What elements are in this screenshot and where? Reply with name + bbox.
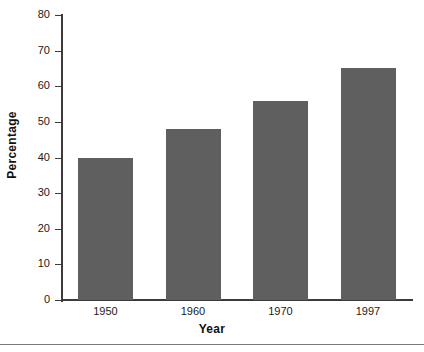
x-axis-tick-label: 1970 <box>256 306 306 317</box>
bar <box>253 101 308 301</box>
y-axis-tick-label: 60 <box>20 80 50 91</box>
plot-area <box>62 15 412 300</box>
y-axis-tick-label: 10 <box>20 258 50 269</box>
y-axis-tick <box>55 300 63 301</box>
x-axis-tick-label: 1997 <box>343 306 393 317</box>
x-axis-tick-label: 1960 <box>168 306 218 317</box>
x-axis-tick-label: 1950 <box>81 306 131 317</box>
bar <box>78 158 133 301</box>
y-axis-title: Percentage <box>5 85 19 205</box>
y-axis-tick-label: 70 <box>20 45 50 56</box>
y-axis-tick-label: 30 <box>20 187 50 198</box>
bottom-divider <box>0 344 424 345</box>
y-axis-tick-label: 50 <box>20 116 50 127</box>
y-axis-tick-label: 80 <box>20 9 50 20</box>
bar-chart-figure: 01020304050607080 1950196019701997 Perce… <box>0 0 424 352</box>
x-axis-title: Year <box>0 322 424 336</box>
bar <box>166 129 221 300</box>
y-axis-tick-label: 40 <box>20 152 50 163</box>
y-axis-tick-label: 0 <box>20 294 50 305</box>
bar <box>341 68 396 300</box>
y-axis-tick-label: 20 <box>20 223 50 234</box>
